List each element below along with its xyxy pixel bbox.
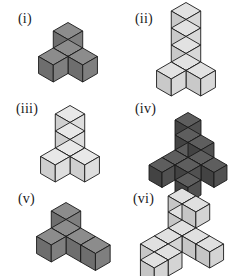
cube [140,252,168,276]
cube [182,228,210,260]
figure-i-canvas [0,0,243,276]
cube [157,62,186,96]
cube [168,188,196,220]
cube [175,158,201,188]
cube [68,48,97,82]
cube [154,244,182,276]
cube [175,143,201,173]
polycube-iv [0,0,243,276]
figure-vi-canvas [0,0,243,276]
cube [55,106,84,140]
cube [175,158,201,188]
cube [154,228,182,260]
cube [55,123,84,157]
figure-v-canvas [0,0,243,276]
cube [55,140,84,174]
cube [140,236,168,268]
cube [162,150,188,180]
cube [39,48,68,82]
figure-label-ii: (ii) [135,12,153,26]
figure-iv-canvas [0,0,243,276]
figure-label-iv: (iv) [135,102,156,116]
figure-grid: (i)(ii)(iii)(iv)(v)(vi) [0,0,243,276]
figure-label-i: (i) [18,12,32,26]
cube [81,237,110,271]
cube [66,228,95,262]
polycube-vi [0,0,243,276]
cube [171,3,200,37]
cube [51,203,80,237]
cube [168,220,196,252]
cube [188,150,214,180]
polycube-v [0,0,243,276]
cube [53,23,82,57]
cube [51,220,80,254]
cube [201,158,227,188]
cube [188,135,214,165]
polycube-iii [0,0,243,276]
figure-label-iii: (iii) [16,102,38,116]
cube [171,20,200,54]
cube [37,228,66,262]
cube [175,113,201,143]
cube [149,158,175,188]
figure-ii-canvas [0,0,243,276]
figure-iii-canvas [0,0,243,276]
polycube-ii [0,0,243,276]
cube [186,62,215,96]
cube [41,148,70,182]
figure-label-v: (v) [18,192,35,206]
cube [171,54,200,88]
cube [175,173,201,203]
cube [168,204,196,236]
cube [70,148,99,182]
cube [53,40,82,74]
cube [182,196,210,228]
figure-label-vi: (vi) [133,192,154,206]
polycube-i [0,0,243,276]
cube [175,128,201,158]
cube [171,37,200,71]
cube [196,236,224,268]
